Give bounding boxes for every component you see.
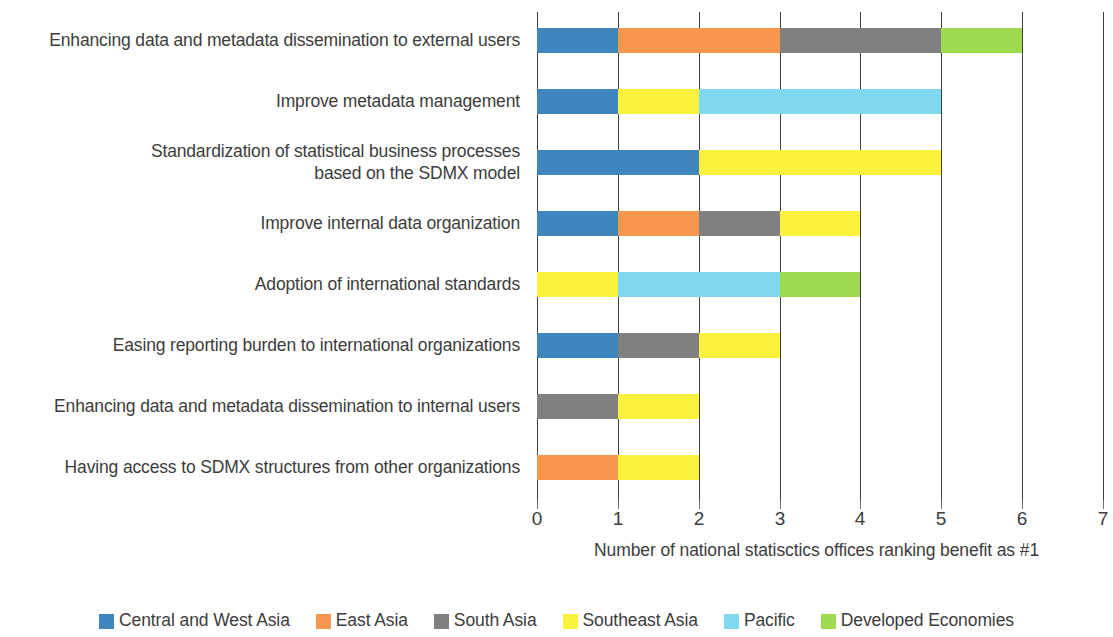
category-label-line: Improve internal data organization bbox=[0, 212, 520, 235]
category-label: Easing reporting burden to international… bbox=[0, 334, 520, 357]
stacked-bar[interactable] bbox=[537, 89, 941, 114]
category-label: Improve internal data organization bbox=[0, 212, 520, 235]
x-tick-label: 5 bbox=[921, 508, 961, 530]
x-tick-label: 4 bbox=[840, 508, 880, 530]
bar-segment[interactable] bbox=[537, 333, 618, 358]
legend-swatch-icon bbox=[563, 614, 578, 629]
bar-segment[interactable] bbox=[699, 211, 780, 236]
stacked-bar[interactable] bbox=[537, 455, 699, 480]
category-label: Enhancing data and metadata disseminatio… bbox=[0, 395, 520, 418]
legend-label: South Asia bbox=[454, 612, 537, 630]
bar-row bbox=[537, 73, 1103, 134]
x-axis-title: Number of national statisctics offices r… bbox=[520, 540, 1113, 561]
bar-segment[interactable] bbox=[699, 150, 942, 175]
category-label-line: Enhancing data and metadata disseminatio… bbox=[0, 29, 520, 52]
category-label-line: Easing reporting burden to international… bbox=[0, 334, 520, 357]
bar-segment[interactable] bbox=[537, 28, 618, 53]
bar-segment[interactable] bbox=[780, 28, 942, 53]
legend-item[interactable]: Pacific bbox=[724, 612, 795, 630]
x-tick-label: 2 bbox=[679, 508, 719, 530]
stacked-bar[interactable] bbox=[537, 211, 860, 236]
x-tick-label: 6 bbox=[1002, 508, 1042, 530]
legend-swatch-icon bbox=[434, 614, 449, 629]
category-label: Having access to SDMX structures from ot… bbox=[0, 456, 520, 479]
legend-item[interactable]: South Asia bbox=[434, 612, 537, 630]
bar-segment[interactable] bbox=[537, 394, 618, 419]
category-label: Standardization of statistical business … bbox=[0, 140, 520, 186]
bar-segment[interactable] bbox=[618, 455, 699, 480]
bar-segment[interactable] bbox=[618, 272, 780, 297]
x-axis-ticks: 01234567 bbox=[537, 500, 1103, 532]
gridline-7 bbox=[1103, 12, 1104, 500]
category-label-line: Standardization of statistical business … bbox=[0, 140, 520, 163]
bar-segment[interactable] bbox=[537, 89, 618, 114]
legend-swatch-icon bbox=[99, 614, 114, 629]
x-tick-label: 7 bbox=[1083, 508, 1113, 530]
bar-segment[interactable] bbox=[618, 28, 780, 53]
category-label: Adoption of international standards bbox=[0, 273, 520, 296]
stacked-bar[interactable] bbox=[537, 150, 941, 175]
bar-segment[interactable] bbox=[537, 272, 618, 297]
category-label-line: based on the SDMX model bbox=[0, 162, 520, 185]
bar-segment[interactable] bbox=[537, 211, 618, 236]
plot-area bbox=[537, 12, 1103, 500]
bar-segment[interactable] bbox=[780, 211, 861, 236]
legend-label: Central and West Asia bbox=[119, 612, 290, 630]
stacked-bar[interactable] bbox=[537, 394, 699, 419]
x-tick-label: 0 bbox=[517, 508, 557, 530]
legend-swatch-icon bbox=[724, 614, 739, 629]
legend-label: East Asia bbox=[336, 612, 408, 630]
bar-segment[interactable] bbox=[618, 89, 699, 114]
stacked-bar-chart: Enhancing data and metadata disseminatio… bbox=[0, 0, 1113, 637]
legend-item[interactable]: Southeast Asia bbox=[563, 612, 698, 630]
category-label: Enhancing data and metadata disseminatio… bbox=[0, 29, 520, 52]
stacked-bar[interactable] bbox=[537, 272, 860, 297]
bar-segment[interactable] bbox=[618, 211, 699, 236]
chart-legend: Central and West AsiaEast AsiaSouth Asia… bbox=[0, 606, 1113, 636]
bar-segment[interactable] bbox=[699, 89, 942, 114]
bar-segment[interactable] bbox=[780, 272, 861, 297]
bar-row bbox=[537, 12, 1103, 73]
bar-segment[interactable] bbox=[618, 394, 699, 419]
legend-swatch-icon bbox=[821, 614, 836, 629]
legend-label: Developed Economies bbox=[841, 612, 1014, 630]
bar-row bbox=[537, 378, 1103, 439]
x-tick-label: 3 bbox=[760, 508, 800, 530]
bar-row bbox=[537, 195, 1103, 256]
bar-segment[interactable] bbox=[941, 28, 1022, 53]
stacked-bar[interactable] bbox=[537, 28, 1022, 53]
legend-item[interactable]: Developed Economies bbox=[821, 612, 1014, 630]
category-label-line: Enhancing data and metadata disseminatio… bbox=[0, 395, 520, 418]
bar-row bbox=[537, 439, 1103, 500]
category-label: Improve metadata management bbox=[0, 90, 520, 113]
legend-label: Pacific bbox=[744, 612, 795, 630]
bar-segment[interactable] bbox=[537, 150, 699, 175]
bar-segment[interactable] bbox=[699, 333, 780, 358]
stacked-bar[interactable] bbox=[537, 333, 780, 358]
x-tick-label: 1 bbox=[598, 508, 638, 530]
category-axis-labels: Enhancing data and metadata disseminatio… bbox=[0, 12, 528, 500]
bar-row bbox=[537, 256, 1103, 317]
bar-segment[interactable] bbox=[537, 455, 618, 480]
legend-label: Southeast Asia bbox=[583, 612, 698, 630]
bar-segment[interactable] bbox=[618, 333, 699, 358]
legend-swatch-icon bbox=[316, 614, 331, 629]
category-label-line: Adoption of international standards bbox=[0, 273, 520, 296]
bar-row bbox=[537, 317, 1103, 378]
legend-item[interactable]: Central and West Asia bbox=[99, 612, 290, 630]
category-label-line: Having access to SDMX structures from ot… bbox=[0, 456, 520, 479]
legend-item[interactable]: East Asia bbox=[316, 612, 408, 630]
bar-row bbox=[537, 134, 1103, 195]
category-label-line: Improve metadata management bbox=[0, 90, 520, 113]
